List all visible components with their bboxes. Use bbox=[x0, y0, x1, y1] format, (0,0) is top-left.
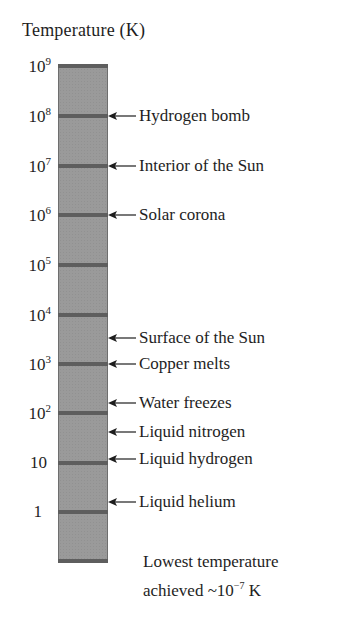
axis-tick-label: 1 bbox=[34, 502, 43, 522]
annotation-label: Water freezes bbox=[139, 393, 232, 413]
tick-mark bbox=[58, 461, 108, 465]
annotation-label: Surface of the Sun bbox=[139, 328, 265, 348]
tick-bottom-edge bbox=[58, 559, 108, 563]
lowest-temperature-note: Lowest temperature achieved ~10−7 K bbox=[143, 550, 278, 603]
left-arrow-icon bbox=[108, 359, 136, 369]
footnote-line-1: Lowest temperature bbox=[143, 550, 278, 574]
axis-tick-label: 105 bbox=[29, 254, 52, 276]
footnote-line-2: achieved ~10−7 K bbox=[143, 574, 278, 603]
annotation-label: Liquid helium bbox=[139, 492, 236, 512]
tick-mark bbox=[58, 164, 108, 168]
tick-mark bbox=[58, 64, 108, 68]
annotation-label: Liquid nitrogen bbox=[139, 422, 245, 442]
tick-mark bbox=[58, 411, 108, 415]
axis-tick-label: 104 bbox=[29, 304, 52, 326]
axis-tick-label: 107 bbox=[29, 155, 52, 177]
axis-tick-label: 106 bbox=[29, 204, 52, 226]
left-arrow-icon bbox=[108, 333, 136, 343]
tick-mark bbox=[58, 510, 108, 514]
left-arrow-icon bbox=[108, 398, 136, 408]
tick-mark bbox=[58, 114, 108, 118]
annotation-label: Interior of the Sun bbox=[139, 156, 264, 176]
annotation-label: Copper melts bbox=[139, 354, 230, 374]
tick-mark bbox=[58, 263, 108, 267]
annotation-label: Hydrogen bomb bbox=[139, 106, 250, 126]
axis-tick-label: 10 bbox=[30, 453, 47, 473]
left-arrow-icon bbox=[108, 427, 136, 437]
left-arrow-icon bbox=[108, 161, 136, 171]
left-arrow-icon bbox=[108, 497, 136, 507]
left-arrow-icon bbox=[108, 454, 136, 464]
axis-tick-label: 103 bbox=[29, 353, 52, 375]
axis-tick-label: 109 bbox=[29, 55, 52, 77]
annotation-label: Liquid hydrogen bbox=[139, 449, 253, 469]
left-arrow-icon bbox=[108, 210, 136, 220]
annotation-label: Solar corona bbox=[139, 205, 225, 225]
axis-tick-label: 108 bbox=[29, 105, 52, 127]
tick-mark bbox=[58, 313, 108, 317]
tick-mark bbox=[58, 213, 108, 217]
axis-tick-label: 102 bbox=[29, 402, 52, 424]
diagram-title: Temperature (K) bbox=[22, 20, 145, 41]
tick-mark bbox=[58, 362, 108, 366]
left-arrow-icon bbox=[108, 111, 136, 121]
